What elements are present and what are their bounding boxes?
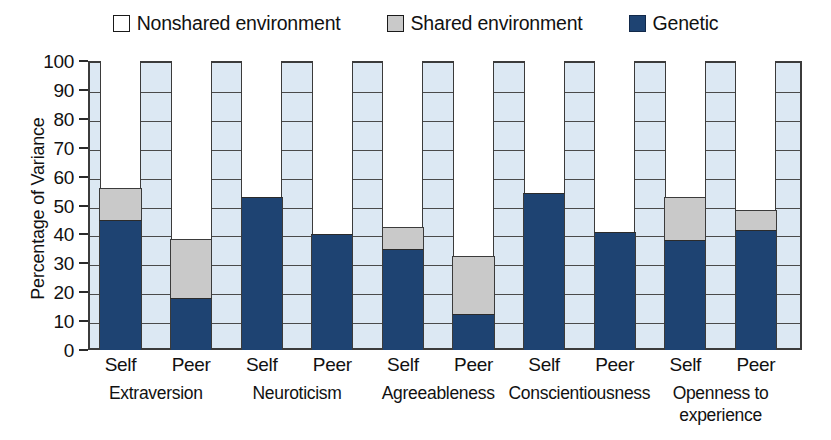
legend-item-nonshared: Nonshared environment (113, 12, 341, 35)
y-tick-mark-0 (79, 349, 88, 351)
x-tick-label-peer-7: Peer (585, 354, 645, 376)
genetic-swatch-icon (629, 15, 646, 32)
y-tick-mark-30 (79, 262, 88, 264)
y-tick-label-30: 30 (30, 254, 74, 273)
y-tick-label-60: 60 (30, 167, 74, 186)
x-tick-label-peer-9: Peer (726, 354, 786, 376)
y-tick-mark-20 (79, 291, 88, 293)
x-tick-label-self-0: Self (91, 354, 151, 376)
chart-legend: Nonshared environment Shared environment… (0, 8, 831, 38)
y-tick-mark-90 (79, 89, 88, 91)
legend-item-genetic: Genetic (629, 12, 719, 35)
gridline-20 (90, 294, 800, 295)
gridline-90 (90, 92, 800, 93)
y-tick-mark-100 (79, 60, 88, 62)
gridline-60 (90, 179, 800, 180)
y-tick-label-10: 10 (30, 312, 74, 331)
group-label-line-2: experience (626, 405, 816, 427)
x-tick-label-peer-1: Peer (161, 354, 221, 376)
x-tick-label-self-2: Self (232, 354, 292, 376)
y-tick-label-20: 20 (30, 283, 74, 302)
group-label-openness-to-experience: Openness toexperience (626, 383, 816, 427)
y-tick-label-0: 0 (30, 341, 74, 360)
y-tick-label-40: 40 (30, 225, 74, 244)
x-axis-group-labels: ExtraversionNeuroticismAgreeablenessCons… (88, 383, 802, 435)
legend-label-shared: Shared environment (411, 12, 583, 35)
y-tick-mark-70 (79, 147, 88, 149)
y-tick-label-100: 100 (30, 52, 74, 71)
x-tick-label-self-4: Self (373, 354, 433, 376)
gridline-40 (90, 236, 800, 237)
y-tick-label-50: 50 (30, 196, 74, 215)
y-tick-mark-60 (79, 176, 88, 178)
legend-label-nonshared: Nonshared environment (137, 12, 341, 35)
legend-item-shared: Shared environment (387, 12, 583, 35)
legend-label-genetic: Genetic (653, 12, 719, 35)
gridline-70 (90, 150, 800, 151)
y-tick-mark-50 (79, 205, 88, 207)
group-label-line-1: Openness to (626, 383, 816, 405)
x-tick-label-peer-5: Peer (444, 354, 504, 376)
gridline-30 (90, 265, 800, 266)
y-tick-mark-40 (79, 233, 88, 235)
gridline-80 (90, 121, 800, 122)
y-tick-mark-80 (79, 118, 88, 120)
x-tick-label-self-8: Self (655, 354, 715, 376)
variance-decomposition-chart: Nonshared environment Shared environment… (0, 0, 831, 440)
y-tick-mark-10 (79, 320, 88, 322)
plot-area (88, 61, 802, 350)
y-tick-label-70: 70 (30, 138, 74, 157)
shared-swatch-icon (387, 15, 404, 32)
x-tick-label-peer-3: Peer (302, 354, 362, 376)
y-tick-label-90: 90 (30, 80, 74, 99)
x-axis-rater-labels: SelfPeerSelfPeerSelfPeerSelfPeerSelfPeer (88, 354, 802, 380)
x-tick-label-self-6: Self (514, 354, 574, 376)
gridline-10 (90, 323, 800, 324)
y-axis: 0102030405060708090100 (30, 61, 88, 350)
y-tick-label-80: 80 (30, 109, 74, 128)
nonshared-swatch-icon (113, 15, 130, 32)
gridline-50 (90, 208, 800, 209)
